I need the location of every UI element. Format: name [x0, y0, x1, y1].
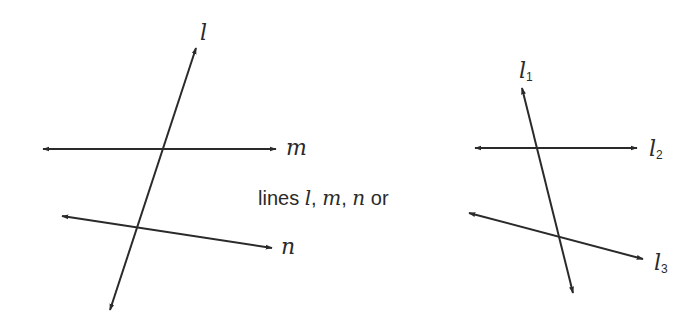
- label-n: n: [281, 234, 295, 259]
- right-figure: l1 l2 l3: [469, 58, 668, 293]
- diagram-canvas: l m n l1 l2 l3: [0, 0, 695, 326]
- line-l1: [522, 88, 573, 293]
- line-l3: [469, 213, 643, 259]
- label-l1: l1: [519, 58, 533, 84]
- line-n: [62, 216, 272, 248]
- caption-sep: ,: [311, 187, 322, 209]
- caption-sep: ,: [341, 187, 352, 209]
- label-l3: l3: [654, 250, 668, 276]
- caption-suffix: or: [365, 187, 388, 209]
- left-figure: l m n: [43, 20, 307, 310]
- line-l: [110, 48, 196, 310]
- label-l2: l2: [649, 136, 663, 162]
- caption: lines l, m, n or: [258, 186, 389, 210]
- label-m: m: [286, 135, 307, 160]
- caption-var-n: n: [352, 186, 365, 210]
- caption-var-m: m: [322, 186, 341, 210]
- caption-prefix: lines: [258, 187, 305, 209]
- label-l: l: [200, 20, 207, 45]
